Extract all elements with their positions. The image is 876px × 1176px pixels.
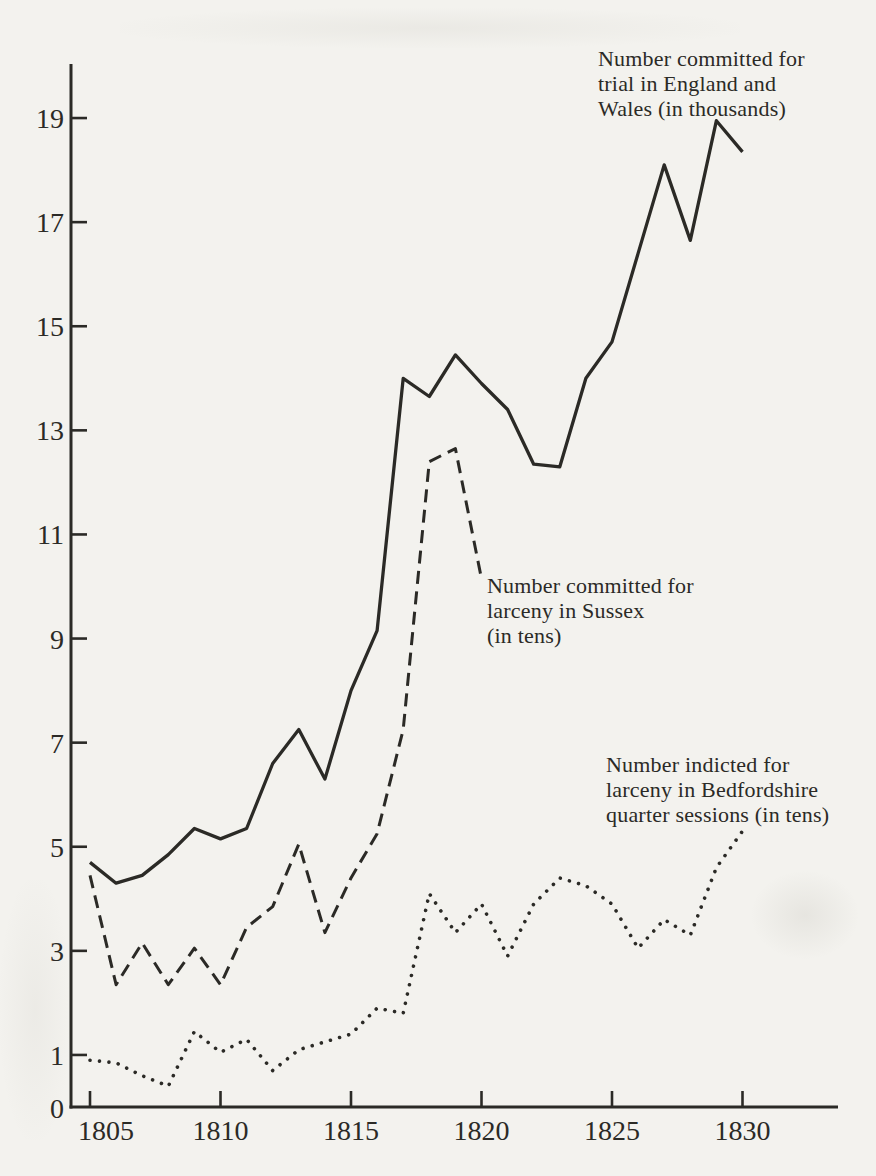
y-axis-tick-label: 19 <box>36 103 64 134</box>
x-axis-tick-label: 1810 <box>193 1115 249 1146</box>
y-axis-tick-label: 3 <box>50 936 64 967</box>
x-axis-tick-label: 1825 <box>584 1115 640 1146</box>
y-axis-tick-label: 17 <box>36 207 64 238</box>
y-axis-tick-label: 1 <box>50 1040 64 1071</box>
y-axis-tick-label: 5 <box>50 832 64 863</box>
y-axis-tick-label: 11 <box>37 519 64 550</box>
sussex-line <box>90 449 482 985</box>
y-axis-tick-label: 9 <box>50 624 64 655</box>
england-wales-series-label: Number committed for trial in England an… <box>598 46 805 121</box>
x-axis-tick-label: 1805 <box>78 1115 134 1146</box>
x-axis-tick-label: 1830 <box>715 1115 771 1146</box>
x-axis-tick-label: 1815 <box>323 1115 379 1146</box>
scanned-chart-page: 1357911131517190 18051810181518201825183… <box>0 0 876 1176</box>
bedfordshire-series-label: Number indicted for larceny in Bedfordsh… <box>606 752 829 827</box>
y-axis-tick-label: 15 <box>36 311 64 342</box>
y-axis-tick-label: 13 <box>36 415 64 446</box>
y-axis-tick-label: 7 <box>50 728 64 759</box>
x-axis-ticks: 180518101815182018251830 <box>78 1091 771 1146</box>
x-axis-tick-label: 1820 <box>454 1115 510 1146</box>
y-axis-origin-label: 0 <box>50 1093 64 1124</box>
y-axis-ticks: 1357911131517190 <box>36 103 87 1124</box>
sussex-series-label: Number committed for larceny in Sussex (… <box>487 573 694 648</box>
chart-canvas: 1357911131517190 18051810181518201825183… <box>0 0 876 1176</box>
bedfordshire-line <box>90 831 743 1086</box>
